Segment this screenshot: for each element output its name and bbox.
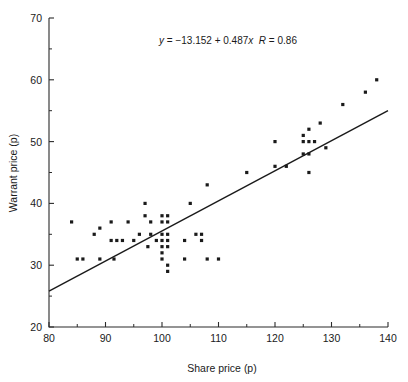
data-point [160, 251, 163, 254]
y-tick-label: 20 [30, 321, 42, 333]
data-point [160, 239, 163, 242]
data-point [273, 140, 276, 143]
data-point [319, 121, 322, 124]
data-point [115, 239, 118, 242]
data-point [146, 245, 149, 248]
x-tick-label: 140 [379, 332, 397, 344]
data-point [364, 91, 367, 94]
y-tick-label: 60 [30, 74, 42, 86]
data-point [307, 171, 310, 174]
chart-canvas: 8090100110120130140 203040506070 Share p… [0, 0, 408, 382]
data-point [285, 165, 288, 168]
data-point [70, 220, 73, 223]
data-point [160, 220, 163, 223]
data-point [166, 220, 169, 223]
data-point [194, 233, 197, 236]
data-point [81, 257, 84, 260]
y-axis-title: Warrant price (p) [7, 134, 19, 212]
y-tick-label: 40 [30, 197, 42, 209]
data-point [183, 257, 186, 260]
x-tick-label: 90 [100, 332, 112, 344]
data-point [166, 270, 169, 273]
data-point [98, 227, 101, 230]
data-point [206, 183, 209, 186]
data-point [110, 239, 113, 242]
data-point [121, 239, 124, 242]
fit-line [49, 111, 388, 292]
data-point [302, 140, 305, 143]
data-points [70, 78, 378, 273]
data-point [132, 239, 135, 242]
data-point [302, 152, 305, 155]
data-point [160, 257, 163, 260]
data-point [98, 257, 101, 260]
data-point [245, 171, 248, 174]
data-point [341, 103, 344, 106]
data-point [143, 202, 146, 205]
y-tick-label: 30 [30, 259, 42, 271]
x-axis-title: Share price (p) [187, 362, 256, 374]
data-point [200, 233, 203, 236]
data-point [160, 233, 163, 236]
ticks-layer [49, 18, 388, 327]
data-point [160, 245, 163, 248]
y-tick-label: 70 [30, 12, 42, 24]
data-point [313, 140, 316, 143]
data-point [149, 220, 152, 223]
data-point [189, 202, 192, 205]
regression-equation-annotation: y = −13.152 + 0.487x R = 0.86 [158, 35, 297, 46]
data-point [217, 257, 220, 260]
data-point [166, 264, 169, 267]
data-point [166, 214, 169, 217]
regression-line [49, 111, 388, 292]
data-point [112, 257, 115, 260]
data-point [93, 233, 96, 236]
x-tick-labels: 8090100110120130140 [43, 332, 397, 344]
data-point [183, 239, 186, 242]
data-point [302, 134, 305, 137]
data-point [155, 239, 158, 242]
data-point [200, 239, 203, 242]
data-point [110, 220, 113, 223]
data-point [166, 239, 169, 242]
data-point [375, 78, 378, 81]
y-tick-label: 50 [30, 136, 42, 148]
data-point [307, 128, 310, 131]
data-point [143, 214, 146, 217]
data-point [149, 233, 152, 236]
equation-r-symbol: R [259, 35, 266, 46]
x-tick-label: 100 [153, 332, 171, 344]
equation-r-value: = 0.86 [266, 35, 297, 46]
data-point [166, 233, 169, 236]
data-point [138, 233, 141, 236]
x-tick-label: 120 [266, 332, 284, 344]
data-point [324, 146, 327, 149]
data-point [307, 140, 310, 143]
x-tick-label: 130 [323, 332, 341, 344]
y-tick-labels: 203040506070 [30, 12, 42, 333]
data-point [206, 257, 209, 260]
axes-layer [49, 18, 388, 327]
data-point [76, 257, 79, 260]
data-point [160, 214, 163, 217]
data-point [273, 165, 276, 168]
x-tick-label: 80 [43, 332, 55, 344]
data-point [307, 152, 310, 155]
scatter-chart: 8090100110120130140 203040506070 Share p… [0, 0, 408, 382]
equation-body: = −13.152 + 0.487 [164, 35, 249, 46]
data-point [127, 220, 130, 223]
x-tick-label: 110 [210, 332, 227, 344]
axis-spines [49, 18, 388, 327]
data-point [166, 245, 169, 248]
